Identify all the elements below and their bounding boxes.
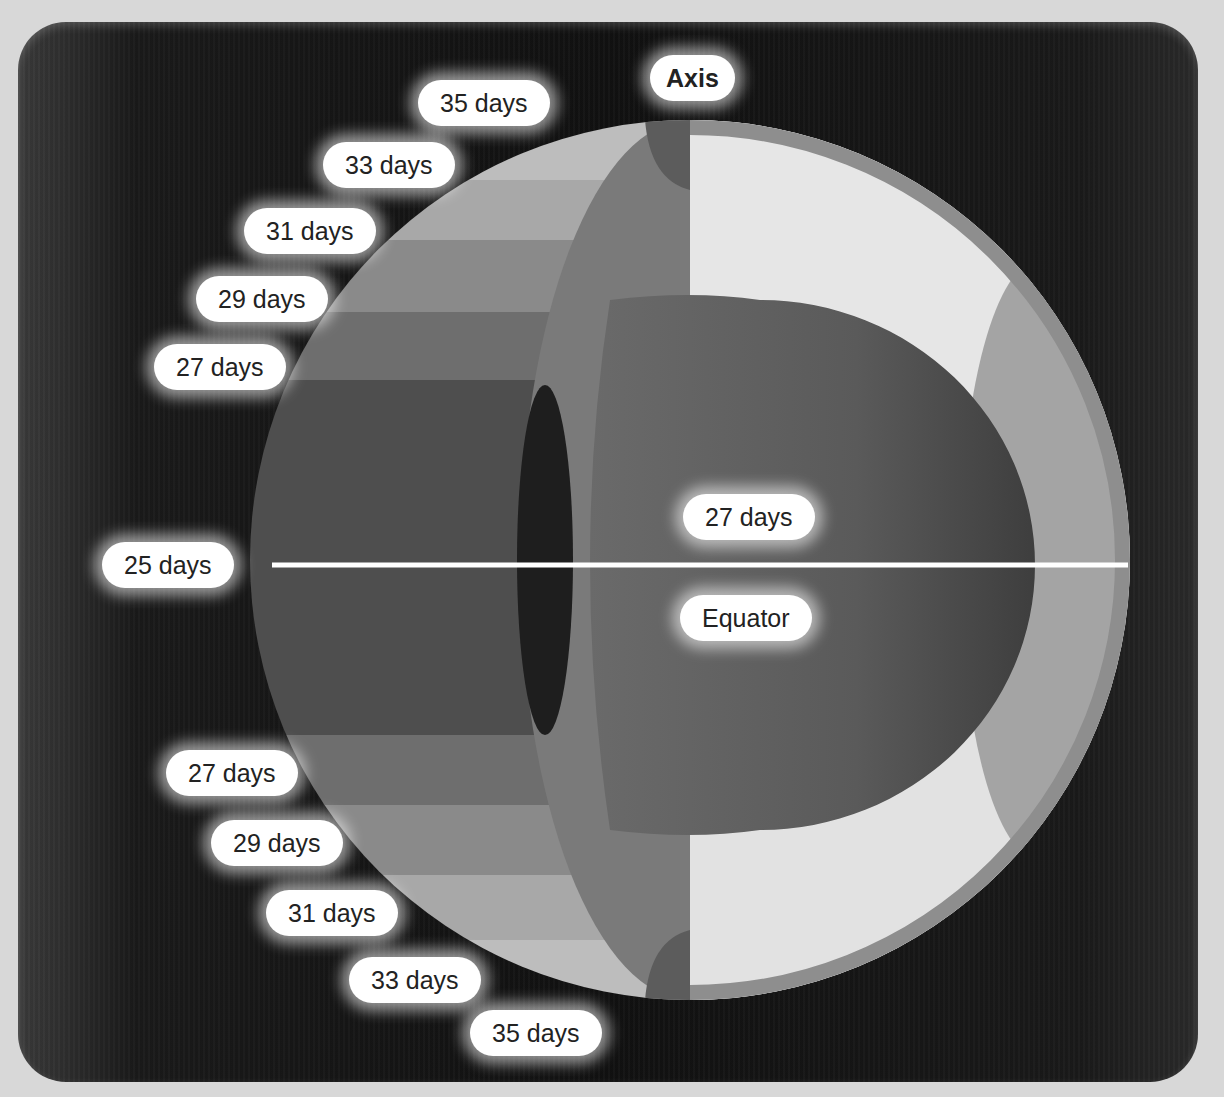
surface-label-south-35: 35 days — [470, 1010, 602, 1056]
sphere-surface — [240, 100, 1190, 1020]
surface-label-south-27: 27 days — [166, 750, 298, 796]
surface-label-north-33: 33 days — [323, 142, 455, 188]
surface-label-south-29: 29 days — [211, 820, 343, 866]
surface-label-south-31: 31 days — [266, 890, 398, 936]
core-label-27: 27 days — [683, 494, 815, 540]
surface-label-equator-25: 25 days — [102, 542, 234, 588]
equator-label: Equator — [680, 595, 812, 641]
axis-label: Axis — [650, 55, 735, 101]
surface-label-south-33: 33 days — [349, 957, 481, 1003]
surface-label-north-31: 31 days — [244, 208, 376, 254]
surface-label-north-27: 27 days — [154, 344, 286, 390]
surface-label-north-35: 35 days — [418, 80, 550, 126]
surface-label-north-29: 29 days — [196, 276, 328, 322]
